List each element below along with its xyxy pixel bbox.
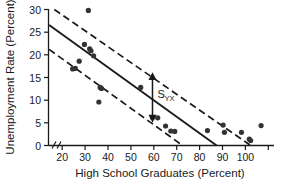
data-point [91,53,96,58]
data-point [221,123,226,128]
data-point [172,129,177,134]
data-point [77,59,82,64]
data-point [205,128,210,133]
x-axis-title: High School Graduates (Percent) [75,167,245,179]
data-point [138,85,143,90]
scatter-chart: 30 25 20 15 10 5 0 20 30 40 50 6 [0,0,281,187]
data-point [96,99,101,104]
data-point [88,48,93,53]
x-axis-tick-labels: 20 30 40 50 60 70 80 90 100 [56,151,254,163]
data-point [73,66,78,71]
y-tick-label: 30 [29,4,41,16]
data-point [99,86,104,91]
data-point [248,138,253,143]
x-tick-label: 90 [217,151,229,163]
x-tick-label: 40 [102,151,114,163]
x-tick-label: 100 [237,151,255,163]
y-tick-label: 0 [35,140,41,152]
syx-label-subscript: YX [164,94,174,103]
data-point [259,123,264,128]
x-tick-label: 80 [194,151,206,163]
data-point [163,123,168,128]
y-tick-label: 15 [29,72,41,84]
data-point [239,130,244,135]
x-tick-label: 70 [171,151,183,163]
y-tick-label: 25 [29,26,41,38]
x-tick-label: 30 [79,151,91,163]
y-tick-label: 5 [35,117,41,129]
chart-canvas: 30 25 20 15 10 5 0 20 30 40 50 6 [0,0,281,187]
data-point [222,130,227,135]
y-tick-label: 10 [29,94,41,106]
x-tick-label: 20 [56,151,68,163]
y-tick-label: 20 [29,49,41,61]
x-tick-label: 50 [125,151,137,163]
data-point [86,8,91,13]
x-tick-label: 60 [148,151,160,163]
data-point [82,42,87,47]
data-point [155,115,160,120]
y-axis-title: Unemployment Rate (Percent) [4,0,16,155]
